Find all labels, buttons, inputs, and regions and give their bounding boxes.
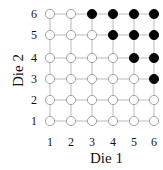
outcome-dot-open: [129, 116, 138, 125]
outcome-dot-filled: [149, 74, 158, 83]
outcome-dot-open: [66, 53, 75, 62]
outcome-dot-filled: [129, 30, 138, 39]
outcome-dot-open: [87, 95, 96, 104]
x-tick-label: 2: [68, 136, 74, 148]
outcome-dot-filled: [108, 9, 117, 18]
outcome-dot-open: [149, 95, 158, 104]
y-tick-label: 3: [31, 73, 37, 85]
y-tick-label: 4: [31, 52, 37, 64]
outcome-dot-open: [149, 116, 158, 125]
outcome-dot-open: [66, 95, 75, 104]
y-tick-label: 6: [31, 8, 37, 20]
outcome-dot-open: [87, 74, 96, 83]
outcome-dot-open: [66, 74, 75, 83]
x-tick-label: 4: [110, 136, 116, 148]
y-tick-label: 1: [31, 115, 37, 127]
outcome-dot-open: [129, 95, 138, 104]
outcome-dot-open: [45, 74, 54, 83]
outcome-dot-filled: [129, 9, 138, 18]
outcome-dot-filled: [149, 9, 158, 18]
x-axis-label: Die 1: [90, 150, 123, 167]
outcome-dot-open: [66, 116, 75, 125]
outcome-dot-open: [66, 30, 75, 39]
outcome-dot-open: [108, 53, 117, 62]
outcome-dot-open: [108, 116, 117, 125]
outcome-dot-filled: [129, 53, 138, 62]
outcome-dot-filled: [149, 53, 158, 62]
outcome-dot-open: [66, 9, 75, 18]
outcome-dot-open: [129, 74, 138, 83]
y-tick-label: 2: [31, 94, 37, 106]
outcome-dot-filled: [108, 30, 117, 39]
outcome-dot-open: [87, 116, 96, 125]
x-tick-label: 3: [89, 136, 95, 148]
outcome-dot-open: [45, 9, 54, 18]
y-axis-label: Die 2: [10, 51, 27, 91]
x-tick-label: 6: [151, 136, 157, 148]
outcome-dot-filled: [149, 30, 158, 39]
outcome-dot-open: [45, 95, 54, 104]
outcome-dot-open: [87, 53, 96, 62]
outcome-dot-open: [108, 74, 117, 83]
y-tick-label: 5: [31, 29, 37, 41]
outcome-dot-filled: [87, 9, 96, 18]
x-tick-label: 1: [47, 136, 53, 148]
outcome-dot-open: [45, 30, 54, 39]
x-tick-label: 5: [131, 136, 137, 148]
outcome-dot-open: [45, 53, 54, 62]
outcome-dot-open: [108, 95, 117, 104]
outcome-dot-open: [87, 30, 96, 39]
outcome-dot-open: [45, 116, 54, 125]
